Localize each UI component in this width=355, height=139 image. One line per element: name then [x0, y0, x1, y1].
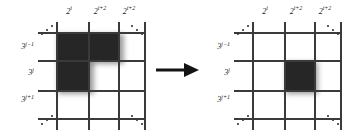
ellipsis-dots-top-left-icon — [40, 23, 56, 37]
ellipsis-dots-bottom-right-icon — [130, 113, 146, 127]
ellipsis-dots-bottom-left-icon — [40, 113, 56, 127]
y-axis-label-1: 3j — [196, 67, 230, 78]
shaded-cell-row1 — [56, 60, 90, 90]
shaded-cell-merged — [284, 60, 314, 90]
x-axis-label-2: 2i+2 — [319, 5, 332, 16]
ellipsis-dots-bottom-right-icon — [326, 113, 342, 127]
grid-hline-1 — [234, 60, 342, 62]
grid-vline-0 — [56, 22, 58, 130]
grid-vline-2 — [314, 22, 316, 130]
grid-vline-1 — [284, 22, 286, 130]
x-axis-label-2: 2i+2 — [123, 5, 136, 16]
y-axis-label-0: 3j−1 — [196, 41, 230, 52]
x-axis-label-1: 2i+2 — [94, 5, 107, 16]
ellipsis-dots-top-right-icon — [130, 23, 146, 37]
ellipsis-dots-top-right-icon — [326, 23, 342, 37]
ellipsis-dots-top-left-icon — [236, 23, 252, 37]
x-axis-label-0: 2i — [66, 5, 72, 16]
grid-hline-2 — [38, 90, 146, 92]
before-grid-panel: 2i 2i+2 2i+2 3j−1 3j 3j+1 — [0, 0, 160, 139]
figure-canvas: 2i 2i+2 2i+2 3j−1 3j 3j+1 — [0, 0, 355, 139]
y-axis-label-0: 3j−1 — [0, 41, 34, 52]
grid-hline-1 — [38, 60, 146, 62]
grid-hline-2 — [234, 90, 342, 92]
grid-vline-0 — [252, 22, 254, 130]
after-grid-panel: 2i 2i+2 2i+2 3j−1 3j 3j+1 — [196, 0, 355, 139]
y-axis-label-1: 3j — [0, 67, 34, 78]
transformation-arrow-icon — [156, 62, 200, 78]
x-axis-label-0: 2i — [262, 5, 268, 16]
y-axis-label-2: 3j+1 — [0, 94, 34, 105]
grid-vline-1 — [88, 22, 90, 130]
grid-vline-2 — [118, 22, 120, 130]
y-axis-label-2: 3j+1 — [196, 94, 230, 105]
ellipsis-dots-bottom-left-icon — [236, 113, 252, 127]
x-axis-label-1: 2i+2 — [290, 5, 303, 16]
